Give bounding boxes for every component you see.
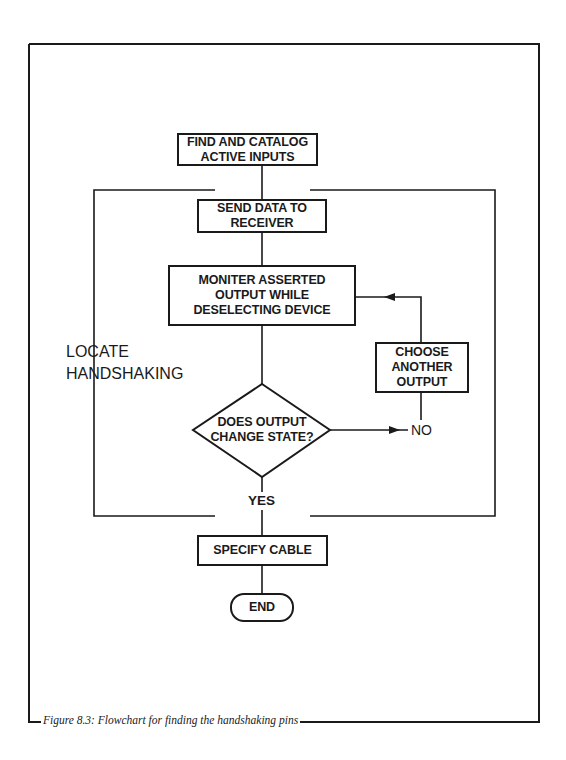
arrowhead-left-icon [384,293,395,301]
node-choose-another-output: CHOOSE ANOTHER OUTPUT [375,342,469,393]
node-find-and-catalog: FIND AND CATALOG ACTIVE INPUTS [177,133,318,166]
group-label-locate-handshaking: LOCATE HANDSHAKING [66,341,183,385]
connector-choose-to-monitor [356,297,421,343]
node-send-data: SEND DATA TO RECEIVER [197,199,327,233]
node-end: END [230,593,294,622]
figure-canvas: FIND AND CATALOG ACTIVE INPUTS SEND DATA… [0,0,566,760]
node-specify-cable: SPECIFY CABLE [197,535,328,566]
node-decision-output-change: DOES OUTPUT CHANGE STATE? [200,412,324,448]
node-monitor-output: MONITER ASSERTED OUTPUT WHILE DESELECTIN… [168,265,356,326]
node-text: MONITER ASSERTED OUTPUT WHILE DESELECTIN… [193,273,330,318]
node-text: SEND DATA TO RECEIVER [217,201,307,231]
node-text: CHOOSE ANOTHER OUTPUT [391,345,452,390]
node-text: SPECIFY CABLE [213,543,312,558]
edge-label-no: NO [411,422,432,438]
figure-caption: Figure 8.3: Flowchart for finding the ha… [41,714,300,726]
node-text: END [249,600,275,615]
arrowhead-right-icon [389,426,400,434]
edge-label-yes: YES [248,493,275,508]
node-text: DOES OUTPUT CHANGE STATE? [210,415,313,445]
node-text: FIND AND CATALOG ACTIVE INPUTS [187,135,308,165]
